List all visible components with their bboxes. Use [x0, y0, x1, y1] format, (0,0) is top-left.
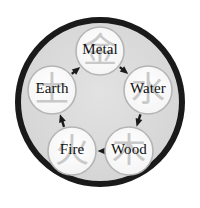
- node-water[interactable]: 水Water: [124, 66, 172, 114]
- node-earth[interactable]: 土Earth: [28, 66, 76, 114]
- node-wood[interactable]: 木Wood: [105, 127, 153, 175]
- node-label-water: Water: [130, 80, 166, 96]
- node-label-wood: Wood: [111, 141, 147, 157]
- node-label-metal: Metal: [82, 41, 118, 57]
- five-elements-diagram: 金Metal水Water木Wood火Fire土Earth: [0, 0, 200, 208]
- node-metal[interactable]: 金Metal: [76, 27, 124, 75]
- node-label-earth: Earth: [36, 80, 69, 96]
- diagram-canvas: 金Metal水Water木Wood火Fire土Earth: [0, 0, 200, 208]
- node-label-fire: Fire: [60, 141, 85, 157]
- node-fire[interactable]: 火Fire: [48, 127, 96, 175]
